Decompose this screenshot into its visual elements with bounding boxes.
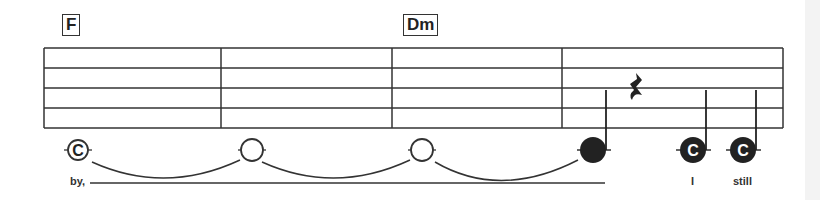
svg-text:C: C [72, 142, 84, 159]
music-staff: C C C [0, 0, 820, 200]
svg-text:C: C [687, 142, 699, 159]
svg-text:C: C [737, 142, 749, 159]
lyric-still: still [733, 175, 752, 187]
quarter-rest-icon [630, 73, 642, 100]
lyric-i: I [691, 175, 694, 187]
lyric-by: by, [70, 175, 85, 187]
whole-note [68, 139, 433, 161]
